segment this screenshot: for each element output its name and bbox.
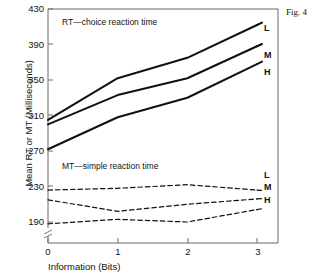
- series-leader-mt-h: [257, 209, 262, 210]
- series-line-rt-l: [48, 25, 257, 120]
- series-line-mt-m: [48, 199, 257, 211]
- series-line-mt-h: [48, 210, 257, 224]
- x-axis-ticks: [48, 238, 257, 243]
- figure-root: Fig. 4 Mean RT or MT (Milliseconds) Info…: [0, 0, 319, 278]
- series-leader-rt-m: [257, 44, 262, 46]
- plot-area: [0, 0, 319, 278]
- series-leader-rt-h: [257, 62, 262, 64]
- series-line-mt-l: [48, 185, 257, 190]
- series-line-rt-h: [48, 64, 257, 149]
- series-line-rt-m: [48, 46, 257, 124]
- series-leader-rt-l: [257, 23, 262, 25]
- plot-frame: [48, 9, 278, 243]
- series-layer: [48, 23, 262, 224]
